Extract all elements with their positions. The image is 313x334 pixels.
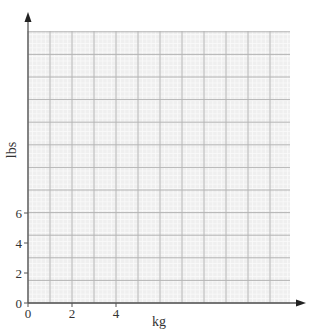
x-axis-arrow-icon [296,300,306,307]
x-axis-label: kg [152,314,166,329]
y-tick-label: 4 [16,236,23,251]
grid [28,31,290,303]
x-tick-label: 2 [69,306,76,321]
y-axis-arrow-icon [25,12,32,22]
x-tick-label: 0 [25,306,32,321]
graph-paper-chart: 0240246 kg lbs [0,0,313,334]
y-tick-label: 2 [16,266,23,281]
y-tick-label: 6 [16,206,23,221]
y-tick-label: 0 [16,296,23,311]
y-axis-label: lbs [4,142,19,158]
x-tick-label: 4 [113,306,120,321]
